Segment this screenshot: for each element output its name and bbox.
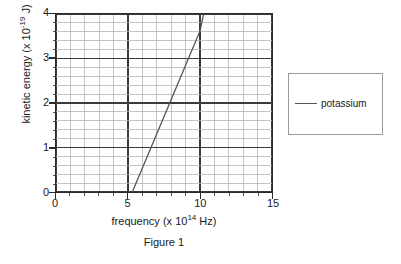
legend-line-swatch-icon	[295, 103, 317, 104]
figure-photoelectric-effect: 43210 051015 kinetic energy (x 10-19 J) …	[0, 0, 401, 264]
x-axis-tick-15: 15	[261, 198, 285, 209]
y-axis-tick-2: 2	[35, 97, 49, 108]
legend-item-label: potassium	[321, 98, 367, 109]
figure-caption: Figure 1	[55, 236, 273, 248]
y-axis-tick-marks	[49, 13, 56, 193]
y-axis-tick-labels: 43210	[33, 13, 49, 193]
series-potassium-line	[56, 14, 272, 192]
y-axis-tick-0: 0	[35, 187, 49, 198]
y-axis-tick-4: 4	[35, 7, 49, 18]
y-axis-title-suffix: J)	[20, 4, 32, 16]
x-axis-title-prefix: frequency (x 10	[112, 215, 188, 227]
plot-area	[55, 13, 273, 193]
y-axis-tick-1: 1	[35, 142, 49, 153]
y-axis-title: kinetic energy (x 10-19 J)	[20, 0, 32, 154]
x-axis-tick-0: 0	[43, 198, 67, 209]
x-axis-tick-labels: 051015	[55, 198, 273, 214]
x-axis-title-suffix: Hz)	[196, 215, 216, 227]
y-axis-title-prefix: kinetic energy (x 10	[20, 28, 32, 123]
x-axis-tick-10: 10	[188, 198, 212, 209]
x-axis-title-exponent: 14	[187, 213, 196, 222]
legend-item-potassium: potassium	[295, 98, 367, 109]
legend-box: potassium	[288, 73, 383, 135]
y-axis-tick-3: 3	[35, 52, 49, 63]
x-axis-title: frequency (x 1014 Hz)	[55, 215, 273, 227]
x-axis-tick-5: 5	[116, 198, 140, 209]
y-axis-title-exponent: -19	[18, 17, 27, 29]
